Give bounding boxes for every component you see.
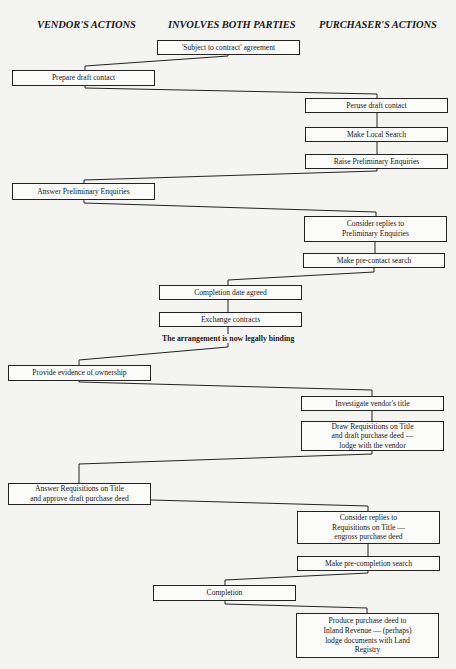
step-subject-to-contract: 'Subject to contract' agreement xyxy=(157,40,300,55)
step-exchange-contracts: Exchange contracts xyxy=(159,312,302,327)
step-answer-preliminary-enquiries: Answer Preliminary Enquiries xyxy=(12,183,155,200)
step-completion: Completion xyxy=(153,585,296,601)
step-produce-purchase-deed: Produce purchase deed to Inland Revenue … xyxy=(296,613,439,658)
step-prepare-draft-contract: Prepare draft contact xyxy=(12,70,155,86)
note-legally-binding: The arrangement is now legally binding xyxy=(162,334,294,343)
step-completion-date-agreed: Completion date agreed xyxy=(159,285,302,300)
step-provide-evidence-of-ownership: Provide evidence of ownership xyxy=(8,365,151,381)
step-investigate-vendors-title: Investigate vendor's title xyxy=(301,396,444,411)
step-consider-replies-requisitions: Consider replies to Requisitions on Titl… xyxy=(297,511,440,544)
step-make-pre-completion-search: Make pre-completion search xyxy=(297,556,440,571)
step-make-pre-contract-search: Make pre-contact search xyxy=(303,253,445,268)
step-consider-replies-preliminary: Consider replies to Preliminary Enquirie… xyxy=(304,216,447,242)
step-peruse-draft-contract: Peruse draft contact xyxy=(305,98,448,113)
step-answer-requisitions-on-title: Answer Requisitions on Title and approve… xyxy=(8,483,151,505)
step-raise-preliminary-enquiries: Raise Preliminary Enquiries xyxy=(305,154,448,169)
step-make-local-search: Make Local Search xyxy=(305,127,448,142)
step-draw-requisitions-on-title: Draw Requisitions on Title and draft pur… xyxy=(301,421,444,451)
